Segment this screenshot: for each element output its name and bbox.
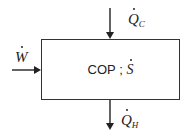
- work-symbol: W: [15, 49, 28, 65]
- work-label: W: [15, 50, 28, 65]
- heat-cold-subscript: C: [139, 19, 145, 29]
- heat-hot-label: QH: [121, 113, 138, 130]
- cop-label: COP ;: [88, 62, 123, 77]
- entropy-rate-symbol: S: [126, 62, 133, 78]
- heat-hot-symbol: Q: [121, 112, 132, 128]
- heat-hot-subscript: H: [132, 120, 139, 130]
- system-label: COP ; S: [42, 40, 179, 99]
- arrow-heat-cold-in: [106, 8, 114, 39]
- heat-cold-symbol: Q: [128, 11, 139, 27]
- arrow-work-in: [12, 66, 41, 74]
- arrow-heat-hot-out: [106, 99, 114, 130]
- heat-pump-system-box: COP ; S: [41, 39, 180, 100]
- heat-cold-label: QC: [128, 12, 145, 29]
